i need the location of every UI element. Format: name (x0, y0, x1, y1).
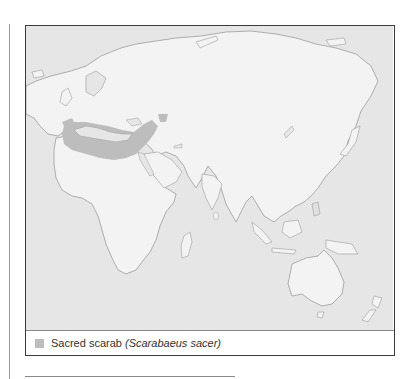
new-zealand-south (362, 310, 376, 322)
sri-lanka (214, 212, 219, 220)
java (272, 248, 296, 254)
legend-label: Sacred scarab (Scarabaeus sacer) (51, 337, 221, 349)
legend-scientific-name: (Scarabaeus sacer) (125, 337, 221, 349)
bottom-rule (25, 376, 235, 377)
legend-common-name: Sacred scarab (51, 337, 122, 349)
map-graphic (26, 26, 393, 330)
new-zealand-north (372, 296, 382, 308)
sumatra (252, 222, 272, 244)
world-map (26, 26, 393, 330)
map-figure: Sacred scarab (Scarabaeus sacer) (25, 25, 395, 356)
map-legend: Sacred scarab (Scarabaeus sacer) (26, 330, 394, 355)
new-guinea (326, 240, 358, 254)
iceland (32, 70, 44, 78)
borneo (282, 220, 302, 238)
arctic-islands (326, 38, 346, 46)
left-margin-rule (9, 24, 10, 379)
australia (288, 250, 344, 306)
philippines (312, 202, 320, 216)
madagascar (181, 232, 192, 258)
tasmania (317, 312, 324, 318)
legend-swatch (35, 339, 44, 348)
